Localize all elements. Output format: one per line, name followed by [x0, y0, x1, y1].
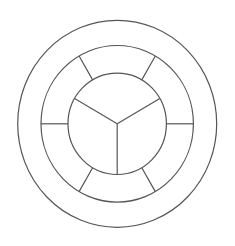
middle-ring-divider	[142, 56, 156, 80]
wheel-svg	[0, 0, 235, 246]
inner-sector-divider	[75, 98, 118, 123]
middle-ring-divider	[79, 168, 93, 192]
middle-ring-divider	[79, 56, 93, 80]
ring-diagram	[0, 0, 235, 246]
middle-ring-divider	[142, 168, 156, 192]
inner-circle-dividers	[75, 98, 160, 174]
inner-sector-divider	[117, 98, 160, 123]
